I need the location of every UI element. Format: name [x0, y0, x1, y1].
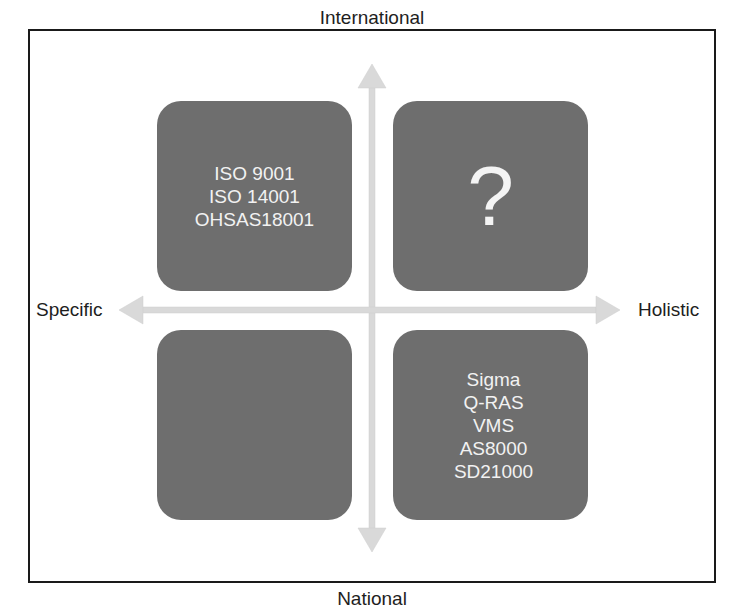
quadrant-item: OHSAS18001 [195, 208, 314, 231]
question-mark-icon: ? [467, 154, 514, 238]
quadrant-item: SD21000 [454, 460, 533, 483]
quadrant-item: Q-RAS [454, 391, 533, 414]
axis-label-holistic: Holistic [638, 300, 699, 319]
axis-label-national: National [337, 589, 407, 608]
arrow-left-icon [119, 296, 143, 324]
axis-arrows [0, 0, 735, 609]
quadrant-top-left: ISO 9001 ISO 14001 OHSAS18001 [157, 101, 352, 291]
arrow-up-icon [358, 64, 386, 88]
quadrant-item: VMS [454, 414, 533, 437]
quadrant-top-right: ? [393, 101, 588, 291]
quadrant-bottom-left [157, 330, 352, 520]
quadrant-item: AS8000 [454, 437, 533, 460]
arrow-down-icon [358, 528, 386, 552]
quadrant-item: ISO 9001 [195, 162, 314, 185]
quadrant-bottom-right: Sigma Q-RAS VMS AS8000 SD21000 [393, 330, 588, 520]
arrow-right-icon [596, 296, 620, 324]
axis-label-specific: Specific [36, 300, 103, 319]
quadrant-item: ISO 14001 [195, 185, 314, 208]
horizontal-axis-line [140, 307, 596, 313]
quadrant-item: Sigma [454, 368, 533, 391]
axis-label-international: International [320, 8, 425, 27]
